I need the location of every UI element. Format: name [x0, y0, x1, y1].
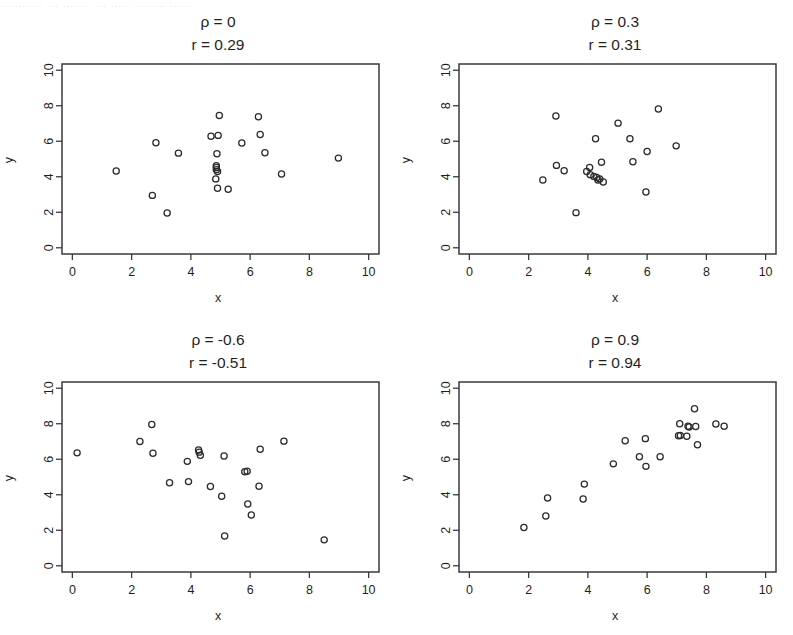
data-point: [208, 133, 214, 139]
y-tick-label: 0: [439, 562, 453, 569]
data-point: [214, 151, 220, 157]
x-tick-label: 10: [362, 583, 376, 597]
panel-title-line2: r = 0.94: [589, 354, 642, 371]
data-point: [598, 159, 604, 165]
y-tick-label: 4: [42, 173, 56, 180]
x-tick-label: 2: [128, 265, 135, 279]
data-points-top-right: [540, 106, 680, 216]
data-point: [219, 493, 225, 499]
data-point: [74, 450, 80, 456]
data-point: [221, 453, 227, 459]
panel-title-line1: ρ = -0.6: [191, 331, 244, 348]
data-point: [561, 168, 567, 174]
x-tick-label: 6: [247, 265, 254, 279]
x-tick-label: 8: [703, 583, 710, 597]
panel-title-line2: r = 0.31: [589, 36, 642, 53]
data-point: [184, 458, 190, 464]
data-point: [540, 177, 546, 183]
y-tick-label: 0: [42, 562, 56, 569]
data-point: [185, 479, 191, 485]
data-point: [222, 533, 228, 539]
data-point: [521, 524, 527, 530]
data-point: [691, 406, 697, 412]
data-points-top-left: [113, 112, 341, 216]
y-tick-label: 2: [42, 527, 56, 534]
panel-title-line1: ρ = 0.3: [591, 13, 639, 30]
data-point: [262, 150, 268, 156]
y-tick-label: 2: [439, 527, 453, 534]
panel-top-left: ρ = 0 r = 0.29 02468100246810 x y: [0, 0, 396, 317]
y-tick-label: 10: [439, 63, 453, 77]
x-tick-label: 10: [759, 265, 773, 279]
x-tick-label: 0: [69, 265, 76, 279]
data-point: [137, 438, 143, 444]
y-tick-label: 0: [439, 244, 453, 251]
data-point: [630, 159, 636, 165]
y-tick-label: 6: [439, 456, 453, 463]
data-point: [335, 155, 341, 161]
y-tick-label: 6: [42, 456, 56, 463]
data-points-bottom-left: [74, 421, 327, 543]
y-tick-label: 4: [439, 491, 453, 498]
data-point: [166, 480, 172, 486]
data-point: [278, 171, 284, 177]
x-tick-label: 6: [644, 265, 651, 279]
data-point: [149, 421, 155, 427]
y-tick-label: 6: [439, 138, 453, 145]
data-point: [113, 168, 119, 174]
plot-box: [62, 382, 379, 572]
data-point: [256, 483, 262, 489]
x-tick-label: 6: [644, 583, 651, 597]
data-point: [677, 421, 683, 427]
panel-title-line1: ρ = 0.9: [591, 331, 639, 348]
y-axis-label: y: [399, 156, 413, 163]
panel-title-line1: ρ = 0: [200, 13, 235, 30]
data-point: [581, 481, 587, 487]
data-point: [627, 136, 633, 142]
data-point: [655, 106, 661, 112]
panel-top-right: ρ = 0.3 r = 0.31 02468100246810 x y: [397, 0, 793, 317]
x-tick-label: 0: [69, 583, 76, 597]
y-axis-label: y: [2, 474, 16, 481]
y-tick-label: 10: [42, 381, 56, 395]
x-axis-label: x: [215, 609, 222, 623]
y-tick-label: 10: [439, 381, 453, 395]
data-point: [216, 112, 222, 118]
data-point: [255, 114, 261, 120]
data-point: [153, 140, 159, 146]
data-point: [553, 162, 559, 168]
panel-top-right-svg: ρ = 0.3 r = 0.31 02468100246810 x y: [397, 0, 793, 317]
y-tick-label: 8: [439, 420, 453, 427]
panel-bottom-right: ρ = 0.9 r = 0.94 02468100246810 x y: [397, 318, 793, 635]
x-axis-label: x: [215, 291, 222, 305]
data-point: [321, 537, 327, 543]
x-tick-label: 4: [584, 265, 591, 279]
data-point: [281, 438, 287, 444]
x-tick-label: 4: [187, 265, 194, 279]
x-tick-label: 0: [466, 583, 473, 597]
plot-box: [459, 64, 776, 254]
x-tick-label: 4: [584, 583, 591, 597]
x-tick-label: 10: [362, 265, 376, 279]
data-point: [644, 148, 650, 154]
y-tick-label: 4: [42, 491, 56, 498]
x-tick-label: 2: [525, 583, 532, 597]
data-point: [673, 143, 679, 149]
panel-title-line2: r = 0.29: [192, 36, 245, 53]
data-point: [248, 512, 254, 518]
y-tick-label: 8: [439, 102, 453, 109]
data-point: [257, 131, 263, 137]
y-axis-label: y: [2, 156, 16, 163]
panel-top-left-svg: ρ = 0 r = 0.29 02468100246810 x y: [0, 0, 396, 317]
data-point: [207, 483, 213, 489]
x-tick-label: 8: [306, 583, 313, 597]
panel-bottom-right-svg: ρ = 0.9 r = 0.94 02468100246810 x y: [397, 318, 793, 635]
axes-top-left: 02468100246810: [42, 63, 379, 279]
data-point: [164, 210, 170, 216]
x-tick-label: 8: [306, 265, 313, 279]
y-tick-label: 2: [439, 209, 453, 216]
data-point: [175, 150, 181, 156]
data-point: [150, 450, 156, 456]
data-point: [543, 513, 549, 519]
data-point: [553, 113, 559, 119]
